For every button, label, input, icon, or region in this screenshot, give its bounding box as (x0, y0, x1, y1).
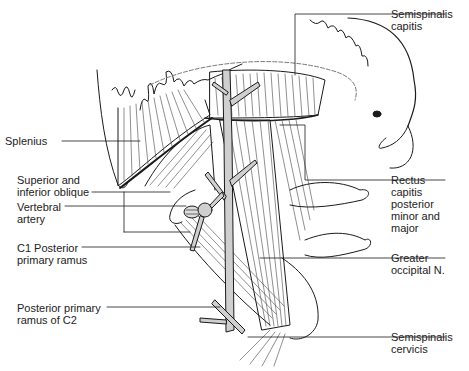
c2-posterior-ramus (200, 300, 245, 334)
label-greater-occipital-nerve: Greater occipital N. (391, 252, 445, 276)
label-c1-posterior-primary-ramus: C1 Posterior primary ramus (17, 242, 87, 266)
vertebral-artery (184, 206, 200, 218)
label-superior-inferior-oblique: Superior and inferior oblique (17, 174, 89, 198)
label-semispinalis-cervicis: Semispinalis cervicis (391, 331, 453, 355)
leader-rectus-capitis (280, 125, 445, 180)
label-splenius: Splenius (5, 135, 47, 147)
anatomy-figure: Splenius Superior and inferior oblique V… (0, 0, 469, 371)
label-semispinalis-capitis: Semispinalis capitis (391, 8, 453, 32)
label-rectus-capitis-posterior: Rectus capitis posterior minor and major (391, 174, 440, 234)
label-posterior-primary-ramus-c2: Posterior primary ramus of C2 (17, 302, 101, 326)
oblique-muscles (145, 125, 215, 190)
ear-canal-mark (373, 111, 381, 117)
label-vertebral-artery: Vertebral artery (17, 201, 61, 225)
